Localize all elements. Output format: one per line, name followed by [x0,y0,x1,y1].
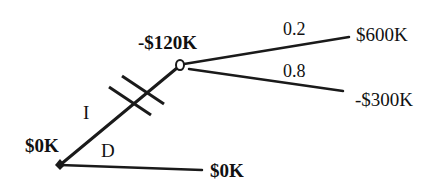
outcome-low-payoff: -$300K [355,90,413,109]
decision-tree-diagram: -$120K $0K I D $0K 0.2 $600K 0.8 -$300K [0,0,447,183]
branch-i-label: I [83,103,89,122]
chance-node-value: -$120K [138,33,197,52]
branch-d-line [60,165,202,170]
branch-d-label: D [101,141,115,160]
outcome-low-probability: 0.8 [283,62,306,80]
branch-d-payoff: $0K [210,161,244,180]
outcome-high-line [184,37,349,64]
chance-node-icon [176,60,184,70]
outcome-high-payoff: $600K [356,25,408,44]
outcome-high-probability: 0.2 [283,20,306,38]
branch-i-line [60,68,177,165]
outcome-low-line [189,69,343,91]
root-node-value: $0K [25,136,59,155]
